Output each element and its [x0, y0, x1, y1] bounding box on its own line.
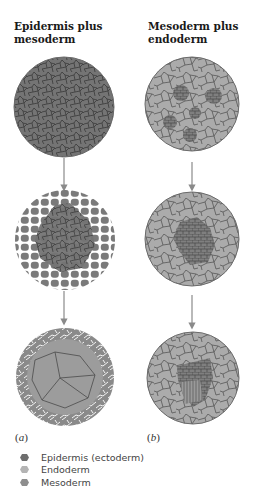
diagram-canvas — [0, 0, 255, 448]
light-cell-icon — [20, 466, 29, 473]
legend-label: Epidermis (ectoderm) — [41, 452, 144, 463]
legend-label: Endoderm — [41, 464, 90, 475]
legend: Epidermis (ectoderm) Endoderm Mesoderm — [20, 451, 144, 488]
part-label-b: (b) — [147, 431, 160, 443]
part-label-a: (a) — [15, 431, 28, 443]
stage-a3-enveloped-mass — [16, 328, 114, 426]
mid-cell-icon — [20, 479, 29, 486]
stage-b3-tube-formation — [147, 332, 239, 424]
legend-item-endoderm: Endoderm — [20, 464, 144, 477]
legend-label: Mesoderm — [41, 477, 91, 488]
stage-b1-scattered-mesoderm — [145, 57, 239, 151]
stage-a2-spreading-epidermis — [15, 190, 115, 290]
part-letter: a — [19, 431, 25, 443]
stage-a1-dense-epidermis — [14, 57, 114, 157]
legend-item-mesoderm: Mesoderm — [20, 476, 144, 488]
dark-cell-icon — [20, 454, 29, 461]
legend-item-epidermis: Epidermis (ectoderm) — [20, 451, 144, 464]
stage-b2-aggregated-mesoderm — [145, 192, 239, 286]
part-letter: b — [151, 431, 157, 443]
